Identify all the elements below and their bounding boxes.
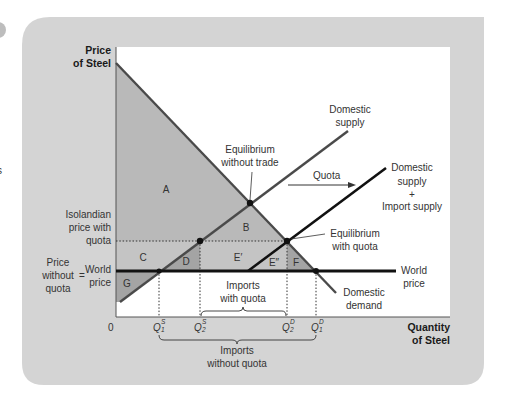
eq-quota-label-1: Equilibrium (330, 228, 379, 239)
isolandian-price-label-3: quota (86, 235, 111, 246)
area-F-label: F (293, 257, 299, 268)
y-axis-title-line2: of Steel (73, 57, 111, 69)
svg-text:Q: Q (153, 322, 161, 333)
svg-text:D: D (319, 318, 324, 325)
isolandian-price-label-1: Isolandian (65, 209, 111, 220)
isolandian-price-label-2: price with (69, 222, 111, 233)
svg-text:Q: Q (282, 322, 290, 333)
supply-at-world-price-point (157, 269, 162, 274)
svg-text:2: 2 (201, 326, 206, 333)
quota-supply-label-2: supply (398, 176, 427, 187)
domestic-demand-label-1: Domestic (343, 287, 385, 298)
price-without-quota-label-1: Price (47, 257, 70, 268)
quota-supply-label-1: Domestic (391, 162, 433, 173)
x-axis-title-line2: of Steel (412, 334, 450, 346)
domestic-supply-label-2: supply (336, 117, 365, 128)
quota-supply-label-3: Import supply (382, 201, 442, 212)
area-B-label: B (243, 222, 250, 233)
world-price-right-label-2: price (403, 278, 425, 289)
price-without-quota-label-2: without (41, 270, 74, 281)
demand-at-world-price-point (313, 268, 319, 274)
world-price-left-label-2: price (89, 277, 111, 288)
figure: Quota Price of Steel Quantity of Steel 0… (0, 0, 506, 404)
domestic-demand-label-2: demand (346, 300, 382, 311)
quota-arrow-label: Quota (313, 170, 341, 181)
imports-with-quota-label-1: Imports (226, 280, 259, 291)
equilibrium-with-quota-point (284, 238, 290, 244)
eq-no-trade-label-2: without trade (220, 157, 279, 168)
imports-without-quota-label-2: without quota (206, 358, 267, 369)
imports-with-quota-label-2: with quota (219, 293, 266, 304)
price-without-quota-label-3: quota (45, 283, 70, 294)
area-E-prime-label: E′ (234, 252, 243, 263)
world-price-left-label-1: World (85, 264, 111, 275)
area-E-double-prime-label: E″ (269, 257, 280, 268)
quota-supply-plus: + (409, 189, 415, 200)
svg-text:1: 1 (319, 326, 323, 333)
area-A-label: A (163, 184, 170, 195)
svg-text:1: 1 (161, 326, 165, 333)
cropped-text-fragment: s (0, 165, 2, 176)
svg-text:S: S (161, 318, 166, 325)
y-axis-title-line1: Price (85, 44, 111, 56)
area-D-label: D (182, 256, 189, 267)
svg-text:S: S (202, 318, 207, 325)
svg-text:2: 2 (289, 326, 294, 333)
svg-text:D: D (290, 318, 295, 325)
domestic-supply-label-1: Domestic (329, 104, 371, 115)
area-C-label: C (139, 252, 146, 263)
svg-text:Q: Q (194, 322, 202, 333)
eq-no-trade-label-1: Equilibrium (225, 144, 274, 155)
svg-text:Q: Q (311, 322, 319, 333)
x-axis-title-line1: Quantity (407, 321, 450, 333)
supply-at-quota-price-point (197, 238, 203, 244)
area-G-label: G (123, 278, 131, 289)
origin-label: 0 (108, 322, 114, 333)
equilibrium-without-trade-point (247, 200, 253, 206)
eq-quota-label-2: with quota (331, 241, 378, 252)
imports-without-quota-label-1: Imports (220, 345, 253, 356)
page-edge-marker (0, 22, 6, 38)
world-price-right-label-1: World (401, 265, 427, 276)
